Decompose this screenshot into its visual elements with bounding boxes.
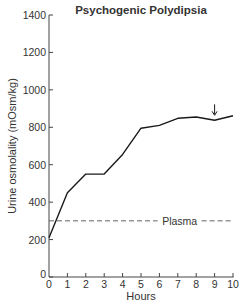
chart-title: Psychogenic Polydipsia bbox=[75, 4, 207, 16]
x-tick-label: 4 bbox=[120, 278, 126, 290]
y-axis-ticks: 0200400600800100012001400 bbox=[23, 9, 53, 280]
x-axis-ticks: 012345678910 bbox=[46, 273, 239, 290]
y-tick-label: 400 bbox=[28, 196, 46, 208]
x-axis-label: Hours bbox=[126, 290, 156, 302]
y-tick-label: 800 bbox=[28, 121, 46, 133]
x-tick-label: 0 bbox=[46, 278, 52, 290]
x-tick-label: 8 bbox=[193, 278, 199, 290]
x-tick-label: 1 bbox=[64, 278, 70, 290]
x-tick-label: 6 bbox=[156, 278, 162, 290]
plasma-label: Plasma bbox=[162, 215, 197, 227]
data-line bbox=[49, 116, 233, 238]
y-tick-label: 1200 bbox=[23, 46, 47, 58]
x-tick-label: 3 bbox=[101, 278, 107, 290]
y-tick-label: 1000 bbox=[23, 84, 47, 96]
y-tick-label: 200 bbox=[28, 234, 46, 246]
axes bbox=[49, 15, 234, 277]
arrow-down-icon bbox=[212, 104, 217, 115]
y-tick-label: 1400 bbox=[23, 9, 47, 21]
x-tick-label: 10 bbox=[227, 278, 239, 290]
chart: Psychogenic Polydipsia Urine osmolality … bbox=[0, 0, 247, 306]
x-tick-label: 5 bbox=[138, 278, 144, 290]
x-tick-label: 2 bbox=[83, 278, 89, 290]
x-tick-label: 7 bbox=[175, 278, 181, 290]
x-tick-label: 9 bbox=[212, 278, 218, 290]
y-axis-label: Urine osmolality (mOsm/kg) bbox=[6, 78, 18, 214]
plasma-reference-line: Plasma bbox=[49, 215, 233, 227]
urine-osmolality-line bbox=[49, 116, 233, 238]
y-tick-label: 600 bbox=[28, 159, 46, 171]
